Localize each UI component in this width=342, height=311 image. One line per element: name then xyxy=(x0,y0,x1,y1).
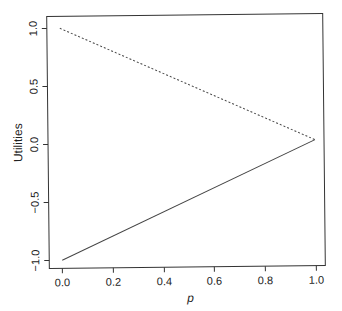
chart: 1.0 0.5 0.0 −0.5 −1.0 Utilities 0.0 0.2 … xyxy=(0,0,342,311)
y-tick-label: −1.0 xyxy=(29,250,41,272)
x-tick-label: 0.0 xyxy=(55,276,70,288)
y-tick-label: 0.0 xyxy=(28,137,40,152)
y-tick-label: 1.0 xyxy=(27,21,39,36)
x-tick-label: 1.0 xyxy=(309,274,324,286)
series-upper-dashed xyxy=(60,26,315,143)
x-tick-label: 0.8 xyxy=(258,274,273,286)
y-axis-label: Utilities xyxy=(11,123,25,162)
y-axis: 1.0 0.5 0.0 −0.5 −1.0 Utilities xyxy=(10,21,50,272)
x-tick-label: 0.4 xyxy=(157,275,172,287)
x-tick-label: 0.2 xyxy=(106,276,121,288)
y-tick-label: −0.5 xyxy=(29,192,41,214)
x-axis: 0.0 0.2 0.4 0.6 0.8 1.0 p xyxy=(55,266,325,307)
x-tick-label: 0.6 xyxy=(207,275,222,287)
x-axis-label: p xyxy=(186,291,194,305)
y-tick-label: 0.5 xyxy=(27,79,39,94)
series-lower-solid xyxy=(61,140,316,261)
plot-frame xyxy=(47,14,326,269)
